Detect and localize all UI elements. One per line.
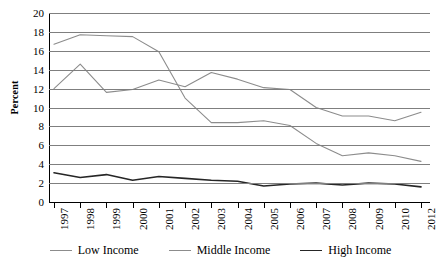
- gridline: [49, 145, 430, 146]
- x-tick-label: 2000: [137, 208, 149, 230]
- gridline: [49, 164, 430, 165]
- x-tick-label: 2012: [425, 208, 437, 230]
- y-tick-label: 20: [10, 7, 44, 19]
- x-tick-label: 2001: [163, 208, 175, 230]
- x-tick-mark: [54, 203, 55, 208]
- x-tick-label: 1999: [110, 208, 122, 230]
- legend-swatch-icon: [50, 250, 72, 251]
- legend-item[interactable]: Low Income: [50, 243, 139, 258]
- chart-legend: Low IncomeMiddle IncomeHigh Income: [0, 243, 441, 258]
- x-tick-label: 2004: [242, 208, 254, 230]
- y-tick-label: 12: [10, 83, 44, 95]
- gridline: [49, 13, 430, 14]
- x-tick-mark: [290, 203, 291, 208]
- x-tick-mark: [395, 203, 396, 208]
- x-tick-label: 2002: [189, 208, 201, 230]
- legend-item[interactable]: Middle Income: [169, 243, 271, 258]
- x-tick-mark: [369, 203, 370, 208]
- y-tick-label: 4: [10, 158, 44, 170]
- plot-area: [49, 13, 430, 202]
- y-tick-label: 6: [10, 139, 44, 151]
- chart-figure: Percent 20181614121086420 19971998199920…: [0, 0, 441, 265]
- x-tick-mark: [133, 203, 134, 208]
- x-tick-label: 2007: [320, 208, 332, 230]
- x-tick-mark: [185, 203, 186, 208]
- legend-label: High Income: [328, 243, 391, 258]
- y-tick-label: 8: [10, 120, 44, 132]
- y-tick-label: 2: [10, 177, 44, 189]
- x-tick-label: 2003: [215, 208, 227, 230]
- x-tick-mark: [80, 203, 81, 208]
- legend-swatch-icon: [300, 250, 322, 251]
- y-tick-label: 18: [10, 26, 44, 38]
- y-tick-label: 16: [10, 45, 44, 57]
- x-tick-mark: [211, 203, 212, 208]
- x-tick-mark: [238, 203, 239, 208]
- gridline: [49, 108, 430, 109]
- y-tick-label: 10: [10, 102, 44, 114]
- x-tick-label: 1998: [84, 208, 96, 230]
- x-tick-label: 2006: [294, 208, 306, 230]
- legend-swatch-icon: [169, 250, 191, 251]
- legend-label: Low Income: [78, 243, 139, 258]
- x-tick-label: 2008: [346, 208, 358, 230]
- y-tick-label: 0: [10, 196, 44, 208]
- x-tick-mark: [316, 203, 317, 208]
- gridline: [49, 70, 430, 71]
- y-axis-ticklabels: 20181614121086420: [8, 0, 44, 265]
- gridline: [49, 183, 430, 184]
- y-tick-label: 14: [10, 64, 44, 76]
- gridline: [49, 32, 430, 33]
- x-tick-mark: [342, 203, 343, 208]
- x-tick-mark: [421, 203, 422, 208]
- series-line-low-income: [54, 35, 421, 162]
- legend-label: Middle Income: [197, 243, 271, 258]
- series-line-middle-income: [54, 64, 421, 121]
- x-tick-mark: [106, 203, 107, 208]
- x-tick-label: 2009: [373, 208, 385, 230]
- x-tick-label: 2010: [399, 208, 411, 230]
- gridline: [49, 89, 430, 90]
- x-tick-mark: [159, 203, 160, 208]
- series-line-high-income: [54, 173, 421, 187]
- gridline: [49, 126, 430, 127]
- gridline: [49, 51, 430, 52]
- x-tick-label: 2005: [268, 208, 280, 230]
- legend-item[interactable]: High Income: [300, 243, 391, 258]
- x-tick-label: 1997: [58, 208, 70, 230]
- x-tick-mark: [264, 203, 265, 208]
